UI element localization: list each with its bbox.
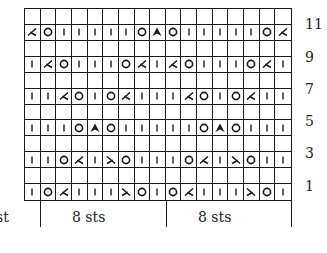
chart-cell xyxy=(119,9,135,25)
knit-stitch-icon xyxy=(151,90,163,102)
chart-cell xyxy=(197,9,213,25)
knit-stitch-icon xyxy=(198,26,210,38)
chart-cell xyxy=(181,105,197,121)
chart-cell xyxy=(72,184,88,200)
chart-cell xyxy=(72,89,88,105)
chart-cell xyxy=(260,120,276,136)
yarn-over-icon xyxy=(73,122,85,134)
knit-stitch-icon xyxy=(89,26,101,38)
chart-cell xyxy=(213,184,229,200)
knit-stitch-icon xyxy=(230,26,242,38)
chart-cell xyxy=(275,120,291,136)
chart-cell xyxy=(166,41,182,57)
chart-cell xyxy=(119,25,135,41)
knit-stitch-icon xyxy=(151,122,163,134)
ssk-icon xyxy=(245,186,257,198)
chart-cell xyxy=(56,168,72,184)
chart-cell xyxy=(181,152,197,168)
chart-cell xyxy=(72,168,88,184)
chart-cell xyxy=(150,41,166,57)
k2tog-icon xyxy=(167,58,179,70)
chart-cell xyxy=(88,120,104,136)
chart-cell xyxy=(150,120,166,136)
knit-stitch-icon xyxy=(167,154,179,166)
yarn-over-icon xyxy=(183,58,195,70)
chart-cell xyxy=(150,57,166,73)
chart-cell xyxy=(228,73,244,89)
chart-cell xyxy=(88,25,104,41)
knit-stitch-icon xyxy=(151,186,163,198)
row-number: 11 xyxy=(305,17,323,31)
knit-stitch-icon xyxy=(245,122,257,134)
repeat-1-label: 8 sts xyxy=(72,209,105,225)
edge-stitch-label: st xyxy=(0,209,9,225)
chart-cell xyxy=(244,25,260,41)
chart-cell xyxy=(197,73,213,89)
chart-cell xyxy=(197,105,213,121)
yarn-over-icon xyxy=(183,154,195,166)
k2tog-icon xyxy=(277,26,289,38)
k2tog-icon xyxy=(261,58,273,70)
chart-cell xyxy=(181,73,197,89)
chart-cell xyxy=(119,105,135,121)
repeat-2-label: 8 sts xyxy=(198,209,231,225)
k2tog-icon xyxy=(73,154,85,166)
chart-cell xyxy=(135,136,151,152)
chart-cell xyxy=(181,41,197,57)
knit-stitch-icon xyxy=(73,26,85,38)
yarn-over-icon xyxy=(261,26,273,38)
chart-cell xyxy=(244,9,260,25)
ssk-icon xyxy=(105,154,117,166)
chart-cell xyxy=(135,89,151,105)
chart-cell xyxy=(25,105,41,121)
yarn-over-icon xyxy=(42,26,54,38)
knit-stitch-icon xyxy=(183,26,195,38)
k2tog-icon xyxy=(183,186,195,198)
chart-cell xyxy=(150,25,166,41)
knit-stitch-icon xyxy=(245,26,257,38)
edge-divider-tick xyxy=(40,201,41,227)
chart-cell xyxy=(260,136,276,152)
knit-stitch-icon xyxy=(73,186,85,198)
knit-stitch-icon xyxy=(214,154,226,166)
chart-cell xyxy=(88,136,104,152)
chart-cell xyxy=(56,184,72,200)
chart-cell xyxy=(41,136,57,152)
chart-cell xyxy=(197,168,213,184)
yarn-over-icon xyxy=(136,186,148,198)
chart-cell xyxy=(166,57,182,73)
chart-cell xyxy=(88,89,104,105)
chart-cell xyxy=(119,41,135,57)
knit-stitch-icon xyxy=(277,154,289,166)
k2tog-icon xyxy=(26,26,38,38)
chart-cell xyxy=(228,105,244,121)
k2tog-icon xyxy=(58,186,70,198)
chart-cell xyxy=(119,57,135,73)
chart-cell xyxy=(56,57,72,73)
chart-cell xyxy=(135,25,151,41)
chart-cell xyxy=(244,57,260,73)
chart-cell xyxy=(260,41,276,57)
chart-cell xyxy=(197,25,213,41)
chart-cell xyxy=(41,9,57,25)
chart-cell xyxy=(228,120,244,136)
chart-cell xyxy=(56,73,72,89)
chart-cell xyxy=(135,152,151,168)
chart-cell xyxy=(119,73,135,89)
chart-cell xyxy=(119,184,135,200)
knit-stitch-icon xyxy=(42,154,54,166)
chart-cell xyxy=(166,184,182,200)
yarn-over-icon xyxy=(73,90,85,102)
chart-cell xyxy=(181,89,197,105)
chart-cell xyxy=(25,168,41,184)
chart-cell xyxy=(88,9,104,25)
chart-cell xyxy=(119,120,135,136)
chart-cell xyxy=(72,25,88,41)
knit-stitch-icon xyxy=(73,58,85,70)
right-edge-tick xyxy=(291,201,292,227)
chart-cell xyxy=(103,57,119,73)
knit-stitch-icon xyxy=(230,186,242,198)
yarn-over-icon xyxy=(105,90,117,102)
chart-cell xyxy=(181,168,197,184)
chart-cell xyxy=(275,89,291,105)
